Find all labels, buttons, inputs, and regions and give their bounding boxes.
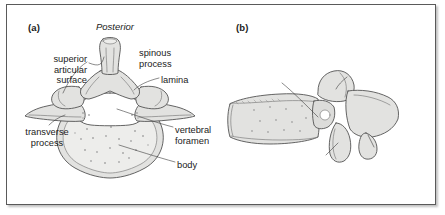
vertebra-lateral-view-illustration — [214, 5, 435, 206]
panel-b-lateral-view: (b) — [214, 5, 435, 204]
spinous-process-lateral-fill — [346, 90, 399, 137]
label-spinous-process-a: spinous process — [139, 48, 201, 69]
panel-a-superior-view: (a) Posterior — [7, 5, 214, 204]
vertebra-superior-view-illustration — [7, 5, 214, 206]
superior-articular-process-right-fill — [136, 86, 169, 109]
label-superior-articular-surface-a: superior articular surface — [15, 54, 87, 86]
figure-root: (a) Posterior — [0, 0, 445, 215]
label-body: body — [177, 160, 213, 171]
label-transverse-process: transverse process — [13, 127, 81, 148]
figure-frame: (a) Posterior — [6, 4, 436, 205]
label-lamina: lamina — [161, 75, 207, 86]
superior-articular-process-left-fill — [52, 86, 85, 109]
